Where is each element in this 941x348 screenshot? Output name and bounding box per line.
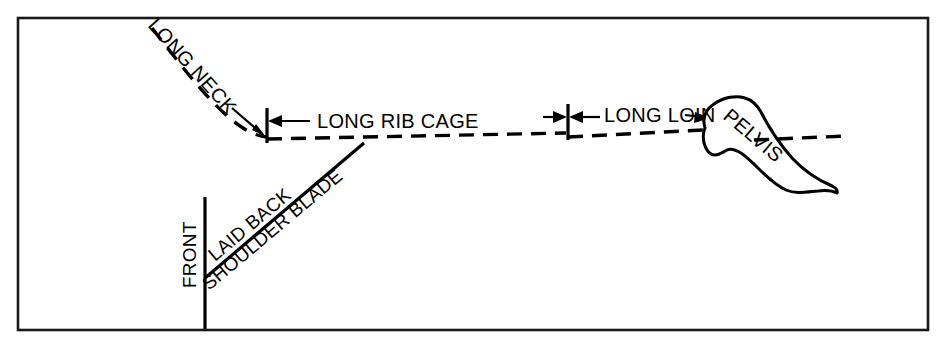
- loin-tick-right-arrow: [569, 111, 600, 123]
- horse-structure-diagram: LONG NECK LONG RIB CAGE LONG LOIN PELVIS…: [0, 0, 941, 348]
- long-rib-cage-dashed-line: [267, 133, 566, 139]
- diagram-root: LONG NECK LONG RIB CAGE LONG LOIN PELVIS…: [0, 0, 941, 348]
- long-loin-dashed-line: [568, 130, 703, 137]
- rib-cage-start-arrow: [268, 115, 310, 127]
- long-loin-label: LONG LOIN: [604, 104, 716, 126]
- long-rib-cage-label: LONG RIB CAGE: [317, 110, 479, 132]
- shoulder-blade-label: SHOULDER BLADE: [198, 165, 346, 294]
- loin-tick-left-arrow: [543, 111, 567, 123]
- front-label: FRONT: [179, 221, 200, 288]
- long-neck-label: LONG NECK: [144, 14, 241, 119]
